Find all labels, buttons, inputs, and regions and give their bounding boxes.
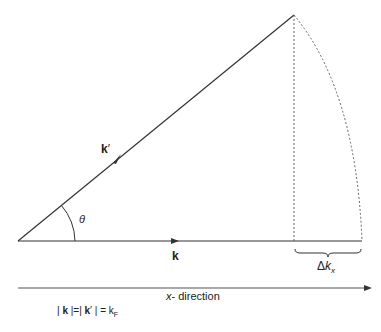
delta-brace	[295, 249, 361, 257]
delta-kx-label: Δkx	[317, 259, 335, 275]
k-prime-arrow-icon	[113, 154, 121, 164]
k-prime-label: k′	[101, 142, 110, 156]
theta-label: θ	[79, 213, 85, 225]
x-direction-arrow-icon	[364, 285, 372, 291]
angle-arc	[62, 206, 76, 242]
k-prime-mark: ′	[108, 142, 110, 156]
eq-mid: |=|	[68, 305, 85, 316]
axis-label-text: - direction	[172, 290, 220, 302]
eq-equals: | =	[92, 305, 109, 316]
k-arrow-icon	[171, 238, 179, 244]
delta-sub: x	[331, 266, 335, 275]
k-label: k	[172, 249, 179, 263]
diagram-canvas	[0, 0, 381, 332]
x-direction-label: x- direction	[166, 290, 220, 302]
delta-symbol: Δ	[317, 259, 325, 273]
k-prime-vector	[18, 15, 294, 241]
magnitude-equation: | k |=| k′ | = kF	[57, 305, 118, 318]
fermi-arc-dashed	[294, 15, 362, 241]
k-prime-letter: k	[101, 142, 108, 156]
eq-kf-sub: F	[114, 311, 118, 318]
